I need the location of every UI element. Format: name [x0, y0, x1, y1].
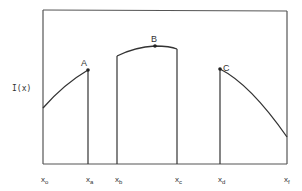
point-a-label: A — [81, 58, 87, 68]
point-c-label: C — [223, 63, 230, 73]
intensity-diagram: A B C I(x) xo xa xb xc xd xf — [0, 0, 302, 191]
point-a-marker — [86, 68, 90, 72]
y-axis-label: I(x) — [12, 84, 31, 93]
point-b-label: B — [151, 34, 157, 44]
tick-label-xc: xc — [175, 175, 182, 185]
tick-label-xb: xb — [115, 175, 123, 185]
tick-label-xa: xa — [86, 175, 94, 185]
point-c-marker — [218, 67, 222, 71]
curve-segment-b — [117, 46, 177, 56]
tick-label-xf: xf — [284, 175, 290, 185]
tick-label-xd: xd — [218, 175, 225, 185]
curve-segment-a — [43, 70, 88, 108]
plot-frame — [43, 10, 287, 164]
x-tick-labels: xo xa xb xc xd xf — [41, 175, 290, 185]
point-b-marker — [153, 44, 157, 48]
curve-segment-c — [220, 69, 287, 137]
frame-top — [43, 10, 287, 11]
tick-label-xo: xo — [41, 175, 49, 185]
